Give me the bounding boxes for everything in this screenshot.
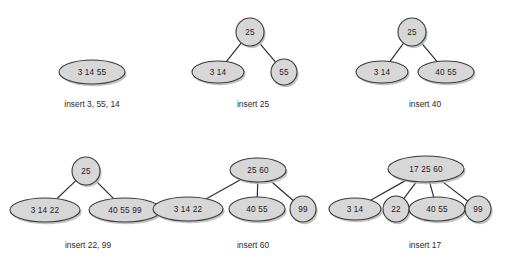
tree-node: 3 14 22 xyxy=(153,197,225,223)
panel-caption: insert 60 xyxy=(237,240,269,250)
tree-node: 3 14 55 xyxy=(59,60,127,86)
tree-edge xyxy=(421,43,437,62)
tree-node: 3 14 xyxy=(192,61,246,85)
node-keys-label: 25 60 xyxy=(247,166,269,175)
node-keys-label: 55 xyxy=(279,68,289,77)
tree-node: 40 55 xyxy=(409,197,467,223)
tree-edge xyxy=(226,43,241,62)
node-keys-label: 40 55 xyxy=(426,205,448,214)
node-keys-label: 25 xyxy=(81,167,91,176)
tree-node: 40 55 xyxy=(418,61,476,85)
tree-node: 99 xyxy=(465,196,493,224)
tree-edge xyxy=(270,181,293,201)
btree-svg-canvas: 3 14 55253 1455253 1440 55253 14 2240 55… xyxy=(0,0,513,273)
btree-insertion-diagram: 3 14 55253 1455253 1440 55253 14 2240 55… xyxy=(0,0,513,273)
node-keys-label: 40 55 xyxy=(435,68,457,77)
node-keys-label: 3 14 22 xyxy=(174,205,203,214)
panel-caption: insert 3, 55, 14 xyxy=(64,99,120,109)
node-keys-label: 3 14 xyxy=(210,68,227,77)
tree-edge xyxy=(57,181,76,199)
tree-node: 25 xyxy=(72,157,102,187)
node-keys-label: 22 xyxy=(391,205,401,214)
node-keys-label: 99 xyxy=(473,205,483,214)
tree-edge xyxy=(96,181,114,199)
panel-caption: insert 40 xyxy=(409,99,441,109)
node-keys-label: 99 xyxy=(298,205,308,214)
node-keys-label: 3 14 xyxy=(347,205,364,214)
tree-node: 40 55 xyxy=(229,197,287,223)
node-keys-label: 40 55 99 xyxy=(108,206,142,215)
tree-node: 3 14 xyxy=(356,61,410,85)
tree-edge xyxy=(206,180,241,199)
node-keys-label: 3 14 22 xyxy=(31,206,60,215)
tree-node: 55 xyxy=(271,59,299,87)
node-keys-label: 17 25 60 xyxy=(409,165,443,174)
tree-edge xyxy=(259,43,276,62)
panel-caption: insert 22, 99 xyxy=(65,240,111,250)
tree-node: 3 14 xyxy=(329,198,383,222)
node-keys-label: 40 55 xyxy=(246,205,268,214)
node-keys-label: 3 14 xyxy=(374,68,391,77)
panel-caption: insert 25 xyxy=(237,99,269,109)
tree-node: 17 25 60 xyxy=(388,156,466,184)
node-keys-label: 25 xyxy=(407,28,417,37)
tree-edge xyxy=(390,43,404,61)
node-keys-label: 25 xyxy=(245,28,255,37)
nodes-layer: 3 14 55253 1455253 1440 55253 14 2240 55… xyxy=(10,18,493,224)
tree-node: 22 xyxy=(383,196,411,224)
tree-edge xyxy=(430,182,434,197)
tree-node: 25 xyxy=(398,18,428,48)
panel-caption: insert 17 xyxy=(409,240,441,250)
tree-node: 99 xyxy=(290,196,318,224)
tree-node: 3 14 22 xyxy=(10,198,82,224)
tree-node: 40 55 99 xyxy=(89,198,163,224)
tree-edge xyxy=(404,182,417,199)
node-keys-label: 3 14 55 xyxy=(78,68,107,77)
